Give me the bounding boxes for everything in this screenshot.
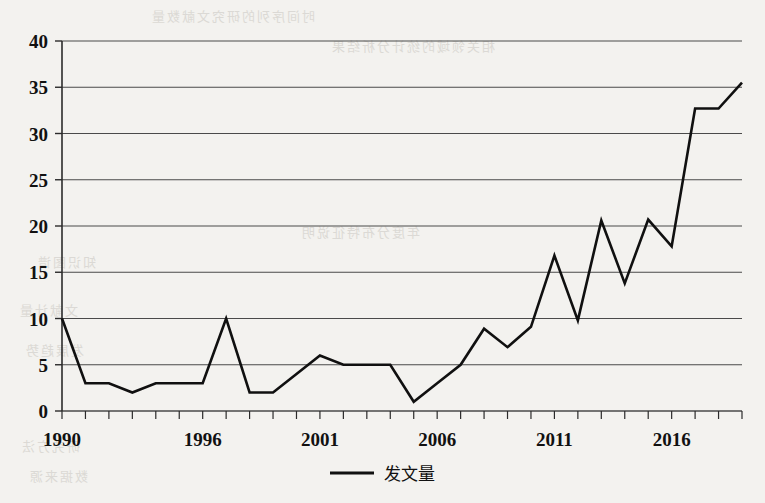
x-axis-ticks <box>62 411 742 419</box>
chart-legend: 发文量 <box>330 464 435 484</box>
data-series-group <box>62 83 742 402</box>
y-tick-label: 10 <box>29 309 48 330</box>
y-gridlines <box>62 41 742 411</box>
line-chart: 0510152025303540 19901996200120062011201… <box>0 0 765 503</box>
x-axis-tick-labels: 199019962001200620112016 <box>43 429 691 450</box>
x-tick-label: 1990 <box>43 429 81 450</box>
x-tick-label: 2001 <box>301 429 339 450</box>
data-line <box>62 83 742 402</box>
legend-label: 发文量 <box>384 464 435 484</box>
y-tick-label: 40 <box>29 31 48 52</box>
y-tick-label: 30 <box>29 124 48 145</box>
y-tick-label: 20 <box>29 216 48 237</box>
y-tick-label: 35 <box>29 77 48 98</box>
x-tick-label: 1996 <box>184 429 222 450</box>
x-tick-label: 2016 <box>653 429 691 450</box>
x-tick-label: 2011 <box>536 429 573 450</box>
y-tick-label: 0 <box>39 401 49 422</box>
x-tick-label: 2006 <box>418 429 456 450</box>
y-tick-label: 25 <box>29 170 48 191</box>
y-axis-tick-labels: 0510152025303540 <box>29 31 62 422</box>
y-tick-label: 5 <box>39 355 49 376</box>
y-tick-label: 15 <box>29 262 48 283</box>
